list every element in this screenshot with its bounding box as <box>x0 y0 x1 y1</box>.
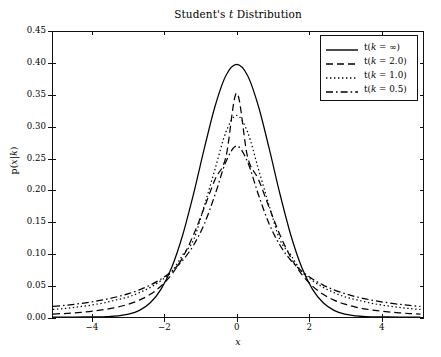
legend-label: t(k = ∞) <box>364 42 412 52</box>
legend-label: t(k = 1.0) <box>364 70 412 80</box>
y-tick-mark-right <box>420 95 424 96</box>
y-tick-label: 0.05 <box>6 281 46 290</box>
y-tick-mark-right <box>420 31 424 32</box>
x-tick-label: −4 <box>72 322 112 332</box>
y-tick-mark-right <box>420 254 424 255</box>
y-tick-mark-inner <box>52 95 56 96</box>
y-tick-mark-right <box>420 159 424 160</box>
y-tick-mark-inner <box>52 190 56 191</box>
legend-item: t(k = 0.5) <box>325 82 412 96</box>
x-tick-label: 0 <box>217 322 257 332</box>
legend-item: t(k = 1.0) <box>325 68 412 82</box>
figure-canvas: Student's t Distribution 0.000.050.100.1… <box>0 0 441 357</box>
y-tick-label: 0.35 <box>6 90 46 99</box>
legend-label: t(k = 2.0) <box>364 56 412 66</box>
x-tick-mark <box>164 318 165 322</box>
legend-line-sample <box>325 69 359 81</box>
series-line <box>53 146 420 306</box>
series-line <box>53 64 420 317</box>
y-tick-mark-right <box>420 190 424 191</box>
x-tick-mark <box>309 318 310 322</box>
y-tick-mark-right <box>420 286 424 287</box>
y-tick-label: 0.40 <box>6 58 46 67</box>
x-tick-mark-inner <box>382 314 383 318</box>
x-tick-mark <box>92 318 93 322</box>
y-tick-mark-right <box>420 63 424 64</box>
y-tick-label: 0.15 <box>6 217 46 226</box>
x-tick-mark-top <box>164 31 165 35</box>
x-tick-mark <box>237 318 238 322</box>
y-tick-mark-right <box>420 222 424 223</box>
x-tick-mark-top <box>237 31 238 35</box>
y-tick-mark-inner <box>52 63 56 64</box>
legend-box: t(k = ∞)t(k = 2.0)t(k = 1.0)t(k = 0.5) <box>320 35 418 101</box>
legend-line-sample <box>325 83 359 95</box>
y-tick-mark-inner <box>52 31 56 32</box>
legend-label: t(k = 0.5) <box>364 84 412 94</box>
legend-line-sample <box>325 41 359 53</box>
y-tick-mark-inner <box>52 159 56 160</box>
y-axis-label: p(x|k) <box>8 116 19 206</box>
x-tick-mark-top <box>309 31 310 35</box>
y-tick-label: 0.00 <box>6 313 46 322</box>
x-tick-mark <box>382 318 383 322</box>
series-line <box>53 93 420 314</box>
x-tick-label: 2 <box>289 322 329 332</box>
legend-line-sample <box>325 55 359 67</box>
x-tick-label: 4 <box>362 322 402 332</box>
y-tick-mark-inner <box>52 127 56 128</box>
y-tick-label: 0.10 <box>6 249 46 258</box>
x-tick-mark-top <box>92 31 93 35</box>
y-tick-mark-inner <box>52 254 56 255</box>
y-tick-mark-inner <box>52 318 56 319</box>
x-axis-label: x <box>52 336 424 347</box>
y-tick-mark-inner <box>52 286 56 287</box>
legend-item: t(k = ∞) <box>325 40 412 54</box>
y-tick-label: 0.45 <box>6 26 46 35</box>
x-tick-mark-inner <box>92 314 93 318</box>
y-tick-mark-inner <box>52 222 56 223</box>
x-tick-mark-inner <box>237 314 238 318</box>
series-line <box>53 115 420 309</box>
y-tick-mark-right <box>420 127 424 128</box>
x-tick-label: −2 <box>144 322 184 332</box>
x-tick-mark-inner <box>309 314 310 318</box>
y-tick-mark-right <box>420 318 424 319</box>
x-tick-mark-inner <box>164 314 165 318</box>
chart-title: Student's t Distribution <box>52 8 424 20</box>
legend-item: t(k = 2.0) <box>325 54 412 68</box>
